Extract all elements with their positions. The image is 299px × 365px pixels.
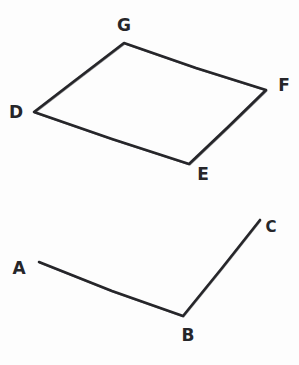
figure-background <box>0 0 299 365</box>
vertex-label-b: B <box>182 325 195 345</box>
figure-container: G F D E A B C <box>0 0 299 365</box>
vertex-label-f: F <box>278 75 290 95</box>
vertex-label-d: D <box>9 102 23 122</box>
geometry-figure-canvas: G F D E A B C <box>0 0 299 365</box>
vertex-label-a: A <box>12 258 26 278</box>
vertex-label-c: C <box>265 218 276 236</box>
vertex-label-e: E <box>197 164 209 184</box>
vertex-label-g: G <box>117 15 131 35</box>
